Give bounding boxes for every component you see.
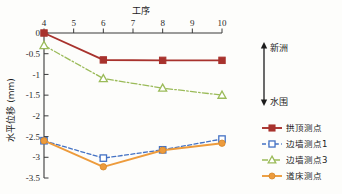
series-marker <box>269 125 275 131</box>
y-axis-tick-label: -0.5 <box>26 49 41 59</box>
y-axis-tick-label: -2 <box>33 111 41 121</box>
series-marker <box>40 41 48 48</box>
direction-annotations: 新洲水围 <box>261 42 288 107</box>
legend-label: 边墙测点3 <box>286 155 327 165</box>
y-axis-title: 水平位移 (mm) <box>5 78 16 141</box>
series-marker <box>269 173 275 179</box>
y-axis-tick-label: -3.5 <box>26 173 41 183</box>
x-axis: 45678910 <box>42 18 227 33</box>
y-axis-tick-label: -1 <box>33 70 41 80</box>
series-layer <box>40 30 226 170</box>
series-line <box>44 33 222 60</box>
series-marker <box>100 164 106 170</box>
series-marker <box>41 30 47 36</box>
series-边墙测点3 <box>40 41 226 98</box>
x-axis-tick-label: 10 <box>218 18 228 28</box>
y-axis: 0-0.5-1-1.5-2-2.5-3-3.5 <box>26 28 49 183</box>
x-axis-tick-label: 4 <box>42 18 47 28</box>
annotation-label-up: 新洲 <box>270 42 288 53</box>
y-axis-tick-label: -1.5 <box>26 90 41 100</box>
arrow-down-icon <box>261 100 267 107</box>
legend-label: 拱顶测点 <box>286 123 322 133</box>
series-marker <box>100 155 106 161</box>
x-axis-tick-label: 5 <box>71 18 76 28</box>
series-marker <box>219 57 225 63</box>
series-marker <box>219 140 225 146</box>
chart-figure: 工序 水平位移 (mm) 45678910 0-0.5-1-1.5-2-2.5-… <box>0 0 342 194</box>
series-line <box>44 45 222 95</box>
x-axis-tick-label: 7 <box>131 18 136 28</box>
legend-item-边墙测点1[interactable]: 边墙测点1 <box>262 139 327 149</box>
series-marker <box>269 141 275 147</box>
legend-label: 道床测点 <box>286 171 322 181</box>
annotation-label-down: 水围 <box>270 96 288 107</box>
y-axis-tick-label: -3 <box>33 152 41 162</box>
series-marker <box>159 147 165 153</box>
y-axis-tick-label: -2.5 <box>26 132 41 142</box>
legend-item-拱顶测点[interactable]: 拱顶测点 <box>262 123 322 133</box>
x-axis-title: 工序 <box>132 5 150 16</box>
series-边墙测点1 <box>41 136 225 161</box>
series-marker <box>100 57 106 63</box>
series-marker <box>99 75 107 82</box>
series-marker <box>41 138 47 144</box>
arrow-up-icon <box>261 42 267 49</box>
chart-legend: 拱顶测点边墙测点1边墙测点3道床测点 <box>262 123 327 181</box>
horizontal-displacement-line-chart: 工序 水平位移 (mm) 45678910 0-0.5-1-1.5-2-2.5-… <box>0 0 342 194</box>
legend-label: 边墙测点1 <box>286 139 327 149</box>
legend-item-道床测点[interactable]: 道床测点 <box>262 171 322 181</box>
x-axis-tick-label: 6 <box>101 18 106 28</box>
series-marker <box>159 57 165 63</box>
series-line <box>44 139 222 158</box>
y-axis-tick-label: 0 <box>36 28 41 38</box>
x-axis-tick-label: 8 <box>160 18 165 28</box>
x-axis-tick-label: 9 <box>190 18 195 28</box>
legend-item-边墙测点3[interactable]: 边墙测点3 <box>262 155 327 165</box>
